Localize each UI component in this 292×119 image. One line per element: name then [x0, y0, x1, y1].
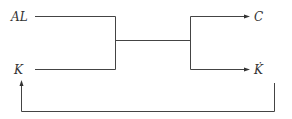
label-k-dot: K̇	[253, 62, 264, 77]
arrowhead-feedback-icon	[20, 80, 24, 86]
flow-diagram: AL K C K̇	[0, 0, 292, 119]
label-c: C	[254, 10, 263, 24]
label-k: K	[13, 63, 24, 77]
feedback-edge	[22, 83, 275, 112]
label-al: AL	[10, 10, 28, 24]
arrowhead-kdot-icon	[244, 68, 250, 72]
arrowhead-c-icon	[244, 15, 250, 19]
